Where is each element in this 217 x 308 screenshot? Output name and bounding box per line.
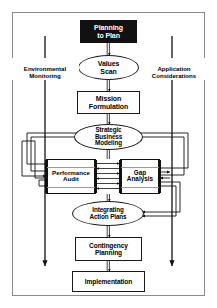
inner-rule [121, 187, 159, 188]
node-contingency-planning[interactable]: Contingency Planning [75, 237, 142, 261]
node-planning-to-plan[interactable]: Planning to Plan [80, 20, 137, 43]
axis-label-text: Application Considerations [152, 65, 196, 79]
node-integrating-action-plans[interactable]: Integrating Action Plans [72, 201, 144, 226]
node-strategic-business-modeling[interactable]: Strategic Business Modeling [74, 124, 143, 150]
node-label: Strategic Business Modeling [95, 127, 122, 147]
node-label: Implementation [85, 278, 132, 285]
node-label: Contingency Planning [89, 242, 128, 256]
label-environmental-monitoring: Environmental Monitoring [11, 58, 79, 80]
node-label: Gap Analysis [121, 170, 159, 184]
inner-rule [47, 187, 95, 188]
node-label: Mission Formulation [89, 95, 128, 110]
connector-layer [0, 0, 217, 308]
axis-label-text: Environmental Monitoring [24, 65, 66, 79]
node-gap-analysis[interactable]: Gap Analysis [120, 159, 160, 194]
node-label: Values Scan [98, 60, 120, 75]
node-label: Performance Audit [47, 170, 95, 183]
node-implementation[interactable]: Implementation [72, 271, 145, 292]
node-label: Planning to Plan [94, 24, 123, 39]
node-performance-audit[interactable]: Performance Audit [46, 159, 96, 194]
audit-gap-exchange-arrows [96, 164, 120, 189]
label-application-considerations: Application Considerations [139, 58, 209, 80]
node-values-scan[interactable]: Values Scan [78, 55, 139, 80]
diagram-root: Planning to Plan Values Scan Mission For… [0, 0, 217, 308]
node-label: Integrating Action Plans [90, 207, 127, 221]
node-mission-formulation[interactable]: Mission Formulation [77, 91, 140, 114]
